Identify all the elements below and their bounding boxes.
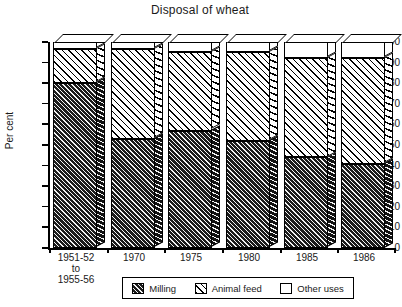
legend-label-other-uses: Other uses: [297, 283, 343, 294]
bar-segment-animal-feed-1985: [284, 58, 328, 158]
bar-segment-milling-1986: [341, 164, 385, 249]
x-axis-label-line1: 1951-52: [48, 252, 104, 263]
legend-swatch-milling-icon: [132, 283, 144, 294]
y-tick-70: [42, 103, 48, 105]
bar-segment-animal-feed-1951-55: [53, 49, 97, 83]
bar-top-face-1970: [112, 34, 172, 43]
y-tick-80: [42, 82, 48, 84]
legend-label-milling: Milling: [149, 283, 176, 294]
x-axis-label-1980: 1980: [221, 252, 277, 263]
x-tick-6: [394, 248, 396, 253]
legend-item-other-uses[interactable]: Other uses: [280, 283, 343, 294]
legend-item-milling[interactable]: Milling: [132, 283, 176, 294]
x-axis-label-1985: 1985: [279, 252, 335, 263]
x-axis-label-1986: 1986: [336, 252, 392, 263]
bar-side-milling-1951-55: [96, 77, 105, 247]
bar-side-animal-feed-1970: [154, 43, 163, 137]
y-tick-40: [42, 165, 48, 167]
bar-segment-animal-feed-1975: [168, 52, 212, 130]
bar-side-animal-feed-1951-55: [96, 43, 105, 82]
bar-segment-milling-1951-55: [53, 83, 97, 248]
chart-legend: Milling Animal feed Other uses: [122, 277, 354, 299]
x-axis-label-line2: to: [48, 263, 104, 274]
bar-segment-other-uses-1986: [341, 42, 385, 58]
legend-swatch-other-uses-icon: [280, 283, 292, 294]
bar-column-1951-55[interactable]: [53, 42, 97, 248]
x-axis-label-line3: 1955-56: [48, 274, 104, 285]
bar-side-animal-feed-1986: [384, 52, 393, 163]
bar-side-animal-feed-1985: [327, 52, 336, 157]
legend-label-animal-feed: Animal feed: [212, 283, 262, 294]
bar-top-face-1980: [227, 34, 287, 43]
y-tick-50: [42, 144, 48, 146]
bar-segment-milling-1985: [284, 157, 328, 248]
bar-top-face-1985: [285, 34, 345, 43]
bar-segment-other-uses-1980: [226, 42, 270, 52]
legend-swatch-animal-feed-icon: [195, 283, 207, 294]
bar-segment-milling-1970: [111, 139, 155, 248]
bar-segment-animal-feed-1986: [341, 58, 385, 164]
x-axis-label-1970: 1970: [106, 252, 162, 263]
bar-segment-milling-1975: [168, 131, 212, 248]
bar-column-1985[interactable]: [284, 42, 328, 248]
bar-segment-milling-1980: [226, 141, 270, 248]
bar-top-face-1986: [342, 34, 402, 43]
y-tick-90: [42, 62, 48, 64]
bar-segment-animal-feed-1970: [111, 49, 155, 139]
y-tick-60: [42, 123, 48, 125]
y-axis-line: [48, 42, 50, 249]
bar-side-animal-feed-1975: [211, 47, 220, 130]
bar-segment-other-uses-1985: [284, 42, 328, 58]
bar-side-milling-1980: [269, 135, 278, 247]
bar-segment-other-uses-1951-55: [53, 42, 97, 49]
y-tick-10: [42, 226, 48, 228]
bar-column-1975[interactable]: [168, 42, 212, 248]
bar-column-1970[interactable]: [111, 42, 155, 248]
x-axis-label-1975: 1975: [163, 252, 219, 263]
y-tick-100: [42, 41, 48, 43]
bar-segment-animal-feed-1980: [226, 52, 270, 141]
y-tick-20: [42, 206, 48, 208]
bar-side-milling-1975: [211, 125, 220, 247]
bar-segment-other-uses-1975: [168, 42, 212, 52]
y-tick-30: [42, 185, 48, 187]
bar-side-milling-1985: [327, 152, 336, 247]
bar-side-milling-1986: [384, 158, 393, 247]
bar-segment-other-uses-1970: [111, 42, 155, 49]
bar-top-face-1975: [169, 34, 229, 43]
y-tick-0: [42, 247, 48, 249]
legend-item-animal-feed[interactable]: Animal feed: [195, 283, 262, 294]
x-axis-label-1951-55: 1951-52 to 1955-56: [48, 252, 104, 285]
bar-column-1980[interactable]: [226, 42, 270, 248]
bar-column-1986[interactable]: [341, 42, 385, 248]
bar-side-animal-feed-1980: [269, 47, 278, 140]
bar-top-face-1951-55: [54, 34, 114, 43]
bar-side-milling-1970: [154, 133, 163, 247]
